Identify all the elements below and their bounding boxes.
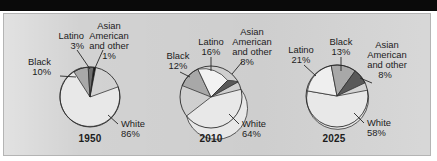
pie-chart-2025: Latino 21% Black 13% Asian American and … (288, 36, 407, 144)
figure-demographic-pie-charts: Black 10% Latino 3% Asian American and o… (0, 0, 437, 161)
label-black-2010-value: 12% (169, 60, 188, 71)
leader-latino-2025 (304, 65, 316, 76)
label-black-2025-value: 13% (332, 46, 351, 57)
label-white-2010-value: 64% (242, 128, 261, 139)
leader-latino-1950 (77, 50, 90, 69)
year-label-2010: 2010 (199, 133, 222, 144)
label-latino-2025-value: 21% (292, 54, 311, 65)
header-band (0, 0, 437, 11)
wedge-white-2010 (187, 89, 248, 139)
year-label-1950: 1950 (78, 133, 101, 144)
label-latino-2010-value: 16% (202, 46, 221, 57)
chart-panel: Black 10% Latino 3% Asian American and o… (3, 13, 431, 156)
label-white-1950-value: 86% (121, 128, 140, 139)
leader-black-2010 (180, 72, 190, 77)
label-asian-1950-value: 1% (102, 50, 116, 61)
label-latino-1950-value: 3% (70, 40, 84, 51)
pie-chart-1950: Black 10% Latino 3% Asian American and o… (28, 20, 145, 144)
label-white-2025-value: 58% (367, 127, 386, 138)
charts-svg: Black 10% Latino 3% Asian American and o… (4, 14, 430, 155)
pie-chart-2010: Black 12% Latino 16% Asian American and … (167, 26, 272, 144)
label-asian-2010-value: 8% (240, 56, 254, 67)
label-black-1950-value: 10% (32, 66, 51, 77)
label-asian-2025-value: 8% (378, 69, 392, 80)
year-label-2025: 2025 (322, 133, 345, 144)
